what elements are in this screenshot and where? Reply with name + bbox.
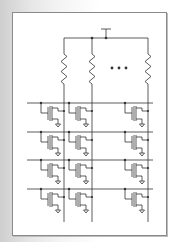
ellipsis-dots: [111, 67, 128, 70]
nmos-transistor-icon: [40, 102, 65, 127]
nmos-transistor-icon: [124, 188, 149, 213]
resistor-icon: [145, 54, 151, 84]
bit-lines: [64, 84, 148, 222]
nmos-transistor-icon: [68, 131, 93, 156]
junction-dot: [105, 37, 108, 40]
transistor-cells: [40, 102, 149, 213]
nmos-transistor-icon: [40, 131, 65, 156]
nmos-transistor-icon: [68, 159, 93, 184]
nmos-transistor-icon: [124, 131, 149, 156]
nmos-transistor-icon: [124, 159, 149, 184]
nmos-transistor-icon: [68, 188, 93, 213]
nmos-transistor-icon: [40, 159, 65, 184]
dot: [125, 67, 128, 70]
resistor-icon: [89, 54, 95, 84]
circuit-schematic: [0, 0, 177, 242]
nmos-transistor-icon: [68, 102, 93, 127]
dot: [111, 67, 114, 70]
vdd-supply-icon: [101, 29, 111, 38]
nmos-transistor-icon: [40, 188, 65, 213]
resistor-group: [61, 38, 151, 84]
nmos-transistor-icon: [124, 102, 149, 127]
resistor-icon: [61, 54, 67, 84]
top-rail: [64, 37, 148, 40]
dot: [118, 67, 121, 70]
